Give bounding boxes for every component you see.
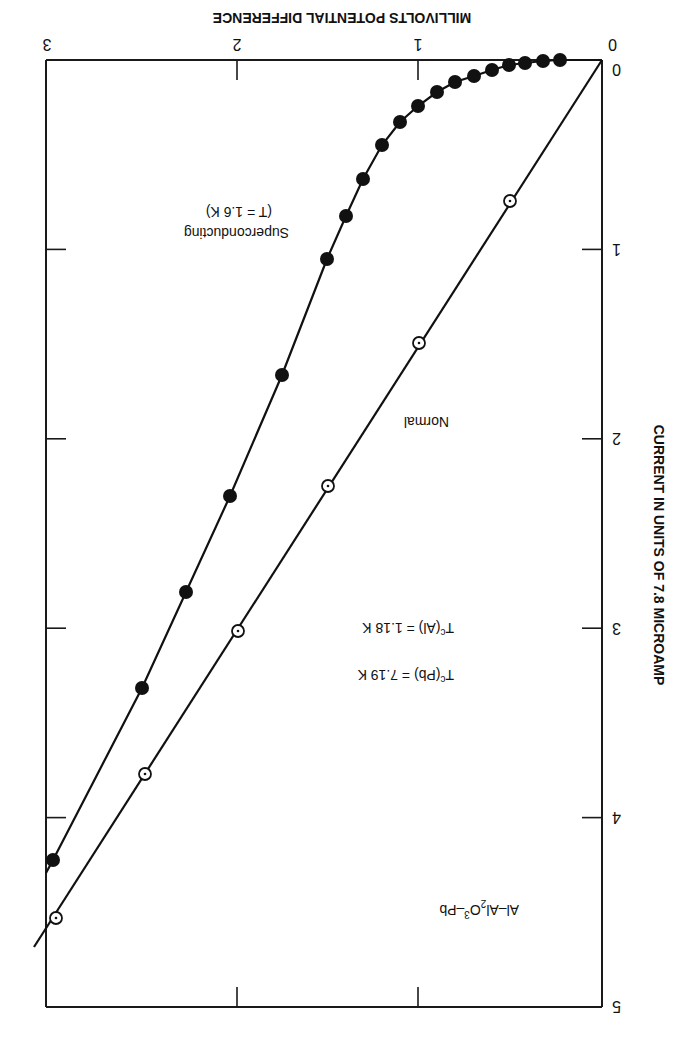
x-tick-label-3: 3 — [42, 36, 51, 53]
junction-label: Al–Al2O3–Pb — [439, 898, 519, 920]
y-axis-title: CURRENT IN UNITS OF 7.8 MICROAMP — [651, 425, 667, 686]
y-tick-label-5: 5 — [612, 998, 621, 1015]
tc-pb-label: Tc(Pb) = 7.19 K — [357, 667, 454, 685]
x-tick-label-1: 1 — [413, 36, 422, 53]
y-tick-label-3: 3 — [612, 620, 621, 637]
superconducting-label: Superconducting — [184, 225, 289, 241]
superconducting-curve-line — [46, 60, 602, 873]
plot-frame — [46, 60, 602, 1007]
y-tick-label-1: 1 — [612, 241, 621, 258]
y-tick-label-0: 0 — [612, 61, 621, 78]
superconducting-temp-label: (T = 1.6 K) — [206, 204, 272, 220]
y-tick-label-4: 4 — [612, 809, 621, 826]
tc-al-label: Tc(Al) = 1.18 K — [362, 620, 454, 638]
x-tick-label-0: 0 — [608, 36, 617, 53]
iv-characteristic-figure: 0 1 2 3 0 1 2 3 4 5 MILLIVOLTS POTENTIAL… — [0, 0, 684, 1055]
x-tick-label-2: 2 — [232, 36, 241, 53]
x-ticks — [237, 60, 418, 1007]
y-tick-label-2: 2 — [612, 430, 621, 447]
normal-label: Normal — [404, 414, 449, 430]
superconducting-series-markers — [46, 53, 567, 867]
y-ticks — [46, 249, 602, 817]
chart-canvas: 0 1 2 3 0 1 2 3 4 5 MILLIVOLTS POTENTIAL… — [0, 0, 684, 1055]
x-axis-title: MILLIVOLTS POTENTIAL DIFFERENCE — [213, 10, 471, 26]
normal-curve-line — [34, 60, 602, 947]
